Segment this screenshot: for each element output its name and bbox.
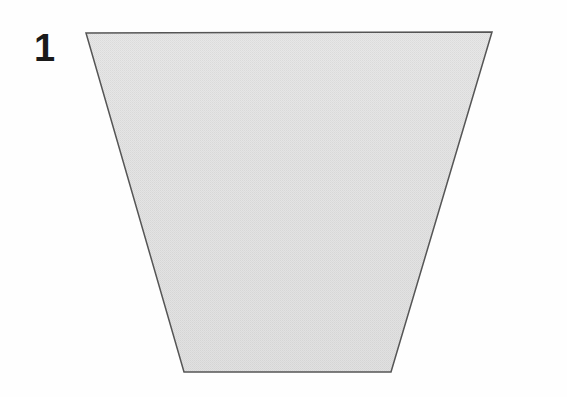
figure-number-label: 1 bbox=[34, 29, 55, 67]
trapezoid-figure-canvas bbox=[0, 0, 567, 397]
figure-root: 1 bbox=[0, 0, 567, 397]
